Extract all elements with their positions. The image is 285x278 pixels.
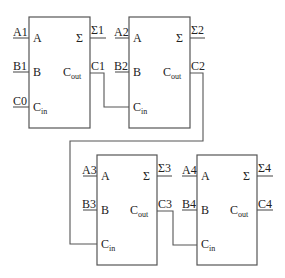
port-sum: Σ <box>143 169 150 183</box>
signal-s1: Σ1 <box>91 23 104 37</box>
signal-c0: C0 <box>13 94 27 108</box>
signal-c2: C2 <box>191 59 205 73</box>
diagram-svg: A1 A B1 B C0 Cin Σ Σ1 Cout C1 A2 A B2 B … <box>0 0 285 278</box>
port-sum: Σ <box>76 31 83 45</box>
port-b: B <box>101 203 109 217</box>
signal-a1: A1 <box>13 25 28 39</box>
carry-wire-c1 <box>90 73 129 107</box>
ripple-carry-adder-diagram: A1 A B1 B C0 Cin Σ Σ1 Cout C1 A2 A B2 B … <box>0 0 285 278</box>
port-b: B <box>133 65 141 79</box>
signal-a3: A3 <box>82 163 97 177</box>
port-a: A <box>101 169 110 183</box>
signal-b1: B1 <box>13 59 27 73</box>
port-sum: Σ <box>176 31 183 45</box>
signal-a2: A2 <box>114 25 129 39</box>
carry-wire-c3 <box>157 211 197 245</box>
full-adder-4: A4 A B4 B Cin Σ Σ4 Cout C4 <box>182 155 273 265</box>
signal-a4: A4 <box>182 163 197 177</box>
signal-b3: B3 <box>82 197 96 211</box>
signal-b4: B4 <box>182 197 196 211</box>
port-sum: Σ <box>243 169 250 183</box>
signal-s3: Σ3 <box>158 161 171 175</box>
port-b: B <box>33 65 41 79</box>
signal-c3: C3 <box>158 197 172 211</box>
signal-b2: B2 <box>114 59 128 73</box>
port-b: B <box>201 203 209 217</box>
port-a: A <box>133 31 142 45</box>
signal-c1: C1 <box>91 59 105 73</box>
full-adder-3: A3 A B3 B Cin Σ Σ3 Cout C3 <box>82 155 172 265</box>
signal-c4: C4 <box>258 197 272 211</box>
signal-s4: Σ4 <box>258 161 271 175</box>
port-a: A <box>201 169 210 183</box>
port-a: A <box>33 31 42 45</box>
signal-s2: Σ2 <box>191 23 204 37</box>
